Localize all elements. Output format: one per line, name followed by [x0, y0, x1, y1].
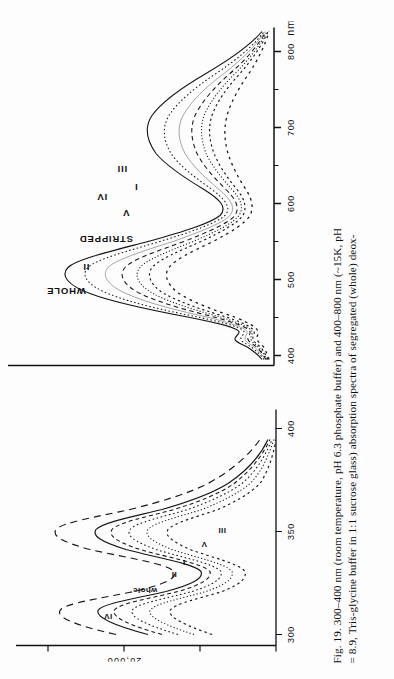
vis-curve-I — [149, 31, 268, 359]
vis-label-III: III — [117, 163, 127, 174]
uv-xtick-350: 350 — [286, 523, 296, 540]
vis-label-V: V — [122, 207, 129, 218]
vis-label-IV: IV — [97, 191, 108, 202]
vis-curves — [65, 31, 269, 359]
vis-label-I: I — [134, 181, 137, 192]
scanned-page-rotator: 20,000 300 350 400 — [0, 0, 394, 679]
chart-vis-svg: 400 500 600 700 800 nm — [6, 21, 312, 379]
vis-curve-II — [85, 31, 264, 359]
vis-xtick-600: 600 — [286, 195, 296, 212]
chart-uv-svg: 20,000 300 350 400 — [12, 405, 312, 661]
uv-label-IV: IV — [104, 611, 113, 620]
scanned-figure-page: 20,000 300 350 400 — [0, 0, 394, 679]
vis-xtick-700: 700 — [286, 119, 296, 136]
uv-label-II: II — [171, 569, 176, 578]
figure-caption-line-2: = 8.9, Tris-glycine buffer in 1:1 sucros… — [345, 15, 360, 663]
chart-vis-400-800nm: 400 500 600 700 800 nm — [6, 21, 312, 379]
uv-x-ticks — [276, 428, 282, 634]
uv-curves — [55, 439, 276, 634]
uv-xtick-300: 300 — [286, 626, 296, 643]
uv-curve-V — [147, 439, 274, 634]
uv-xtick-400: 400 — [286, 420, 296, 437]
uv-curve-II — [111, 439, 270, 634]
uv-label-III: III — [218, 525, 226, 534]
vis-curve-III — [166, 31, 269, 359]
uv-curve-IV — [55, 439, 260, 634]
vis-x-axis-unit: nm — [284, 21, 296, 35]
figure-caption: Fig. 19. 300–400 nm (room temperature, p… — [330, 15, 360, 663]
uv-label-I: I — [183, 557, 186, 566]
uv-curve-III — [167, 439, 276, 634]
vis-label-WHOLE: WHOLE — [46, 285, 85, 296]
uv-curve-whole — [95, 439, 268, 634]
vis-curve-IV — [137, 31, 267, 359]
uv-label-V: V — [201, 539, 207, 548]
vis-xtick-400: 400 — [286, 347, 296, 364]
uv-y-axis-label: 20,000 — [107, 655, 142, 661]
vis-xtick-800: 800 — [286, 43, 296, 60]
figure-caption-line-1: Fig. 19. 300–400 nm (room temperature, p… — [330, 15, 345, 663]
vis-label-STRIPPED: STRIPPED — [79, 233, 133, 244]
vis-label-II: II — [83, 261, 90, 272]
vis-xtick-500: 500 — [286, 271, 296, 288]
uv-label-whole: whole — [133, 585, 159, 594]
vis-x-major-ticks — [274, 51, 281, 355]
vis-curve-WHOLE — [65, 31, 262, 359]
chart-uv-300-400nm: 20,000 300 350 400 — [12, 405, 312, 661]
